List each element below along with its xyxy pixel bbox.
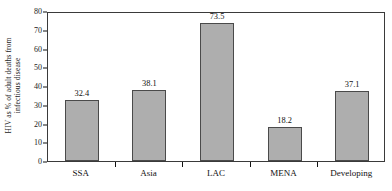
x-axis-tick-mark bbox=[317, 162, 318, 167]
x-axis-tick-label: Developing bbox=[330, 168, 372, 179]
bar bbox=[65, 100, 99, 161]
bar-group: 38.1 bbox=[116, 13, 184, 161]
y-axis-tick-label: 10 bbox=[26, 139, 42, 147]
bar bbox=[200, 23, 234, 161]
bar-group: 73.5 bbox=[183, 13, 251, 161]
bar bbox=[268, 127, 302, 161]
y-axis-title-line-1: HIV as % of adult deaths from bbox=[4, 37, 13, 133]
bar-value-label: 18.2 bbox=[277, 116, 292, 125]
x-axis-tick-mark bbox=[250, 162, 251, 167]
bar-group: 18.2 bbox=[251, 13, 319, 161]
y-axis-tick-mark bbox=[43, 87, 47, 88]
x-axis-tick-label: SSA bbox=[73, 168, 90, 179]
bar-value-label: 73.5 bbox=[210, 12, 225, 21]
x-axis-tick-labels: SSAAsiaLACMENADeveloping bbox=[47, 168, 385, 184]
bar bbox=[335, 91, 369, 161]
x-axis-tick-label: MENA bbox=[270, 168, 297, 179]
y-axis-tick-mark bbox=[43, 162, 47, 163]
bar-value-label: 32.4 bbox=[74, 89, 89, 98]
bar bbox=[132, 90, 166, 161]
bar-chart-figure: HIV as % of adult deaths from infectious… bbox=[0, 0, 392, 191]
y-axis-title: HIV as % of adult deaths from infectious… bbox=[0, 0, 26, 170]
y-axis-tick-label: 40 bbox=[26, 83, 42, 91]
y-axis-tick-mark bbox=[43, 12, 47, 13]
y-axis-tick-label: 0 bbox=[26, 158, 42, 166]
bar-group: 37.1 bbox=[318, 13, 386, 161]
y-axis-title-line-2: infectious disease bbox=[13, 37, 22, 133]
y-axis-tick-mark bbox=[43, 143, 47, 144]
y-axis-tick-label: 20 bbox=[26, 121, 42, 129]
y-axis-tick-mark bbox=[43, 105, 47, 106]
x-axis-tick-mark bbox=[115, 162, 116, 167]
y-axis-tick-labels: 01020304050607080 bbox=[26, 12, 42, 162]
bar-value-label: 37.1 bbox=[345, 80, 360, 89]
y-axis-tick-mark bbox=[43, 68, 47, 69]
bar-value-label: 38.1 bbox=[142, 79, 157, 88]
y-axis-tick-label: 70 bbox=[26, 27, 42, 35]
y-axis-tick-mark bbox=[43, 49, 47, 50]
y-axis-tick-mark bbox=[43, 124, 47, 125]
y-axis-tick-label: 80 bbox=[26, 8, 42, 16]
x-axis-tick-label: Asia bbox=[140, 168, 157, 179]
x-axis-tick-label: LAC bbox=[207, 168, 225, 179]
plot-area: 32.438.173.518.237.1 bbox=[47, 12, 385, 162]
bars-layer: 32.438.173.518.237.1 bbox=[48, 13, 384, 161]
y-axis-tick-label: 60 bbox=[26, 46, 42, 54]
bar-group: 32.4 bbox=[48, 13, 116, 161]
y-axis-tick-label: 50 bbox=[26, 64, 42, 72]
y-axis-tick-mark bbox=[43, 30, 47, 31]
x-axis-tick-mark bbox=[182, 162, 183, 167]
y-axis-tick-label: 30 bbox=[26, 102, 42, 110]
